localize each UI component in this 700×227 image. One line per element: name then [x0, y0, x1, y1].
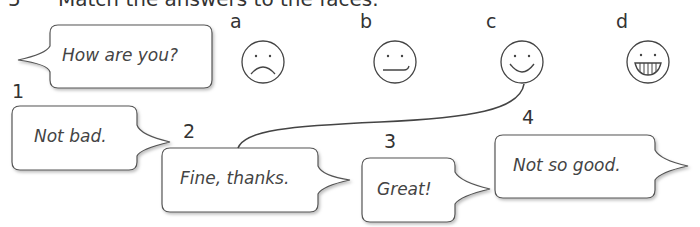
answer-number-1: 1	[12, 80, 24, 102]
answer-text-3: Great!	[377, 179, 432, 199]
answer-number-2: 2	[183, 120, 195, 142]
answer-number-3: 3	[384, 130, 396, 152]
answer-text-1: Not bad.	[34, 126, 107, 146]
face-label-c: c	[486, 10, 496, 32]
question-text: How are you?	[62, 45, 178, 65]
answer-number-4: 4	[522, 106, 534, 128]
face-sad-icon	[242, 41, 284, 83]
match-line	[238, 84, 524, 148]
face-label-d: d	[616, 10, 628, 32]
face-grinning-icon	[627, 41, 669, 83]
face-label-b: b	[360, 10, 372, 32]
answer-text-2: Fine, thanks.	[180, 168, 289, 188]
face-neutral-icon	[374, 41, 416, 83]
face-label-a: a	[230, 10, 242, 32]
answer-text-4: Not so good.	[513, 155, 621, 175]
face-smiling-icon	[501, 41, 543, 83]
